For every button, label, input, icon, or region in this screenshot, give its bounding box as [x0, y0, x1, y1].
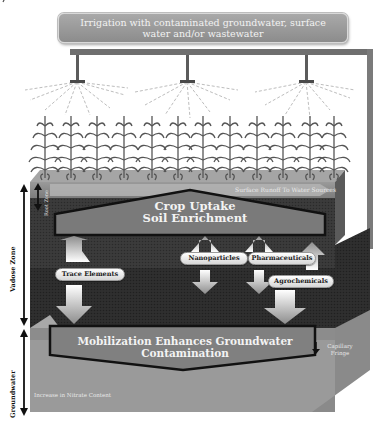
capillary-fringe-line2: Fringe	[320, 350, 360, 357]
crop-uptake-text: Crop Uptake Soil Enrichment	[130, 200, 260, 224]
mobilization-text: Mobilization Enhances Groundwater Contam…	[65, 335, 305, 359]
spray-icon	[25, 82, 355, 118]
mobilization-line1: Mobilization Enhances Groundwater	[65, 335, 305, 347]
nitrate-content-label: Increase in Nitrate Content	[34, 392, 111, 398]
soil-surface	[30, 170, 345, 182]
capillary-fringe-line1: Capillary	[320, 343, 360, 350]
root-zone-label: Root Zone	[43, 190, 49, 216]
crop-uptake-line2: Soil Enrichment	[130, 212, 260, 224]
contaminant-pharmaceuticals: Pharmaceuticals	[248, 252, 316, 265]
groundwater-zone-label: Groundwater	[9, 370, 17, 418]
vadose-zone-label: Vadose Zone	[9, 246, 17, 292]
surface-runoff-label: Surface Runoff To Water Sources	[226, 186, 336, 193]
sprinkler-head-icon	[70, 80, 314, 83]
mobilization-line2: Contamination	[65, 347, 305, 359]
capillary-fringe-label: Capillary Fringe	[320, 343, 360, 357]
corn-plants-icon	[0, 0, 16, 2]
contaminant-trace-elements: Trace Elements	[55, 268, 125, 281]
contaminant-agrochemicals: Agrochemicals	[268, 275, 334, 288]
contaminant-nanoparticles: Nanoparticles	[180, 252, 248, 265]
